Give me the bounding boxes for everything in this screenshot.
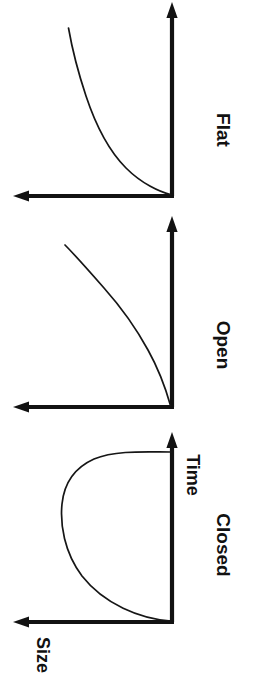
axis-label-time: Time <box>183 454 203 496</box>
axis-label-size: Size <box>33 637 53 673</box>
panel-title-open: Open <box>213 321 234 370</box>
panel-title-flat: Flat <box>213 113 234 147</box>
figure-canvas: Flat Open Closed <box>0 0 255 690</box>
panel-title-closed: Closed <box>213 513 234 576</box>
growth-curve-figure: Flat Open Closed <box>0 0 255 690</box>
